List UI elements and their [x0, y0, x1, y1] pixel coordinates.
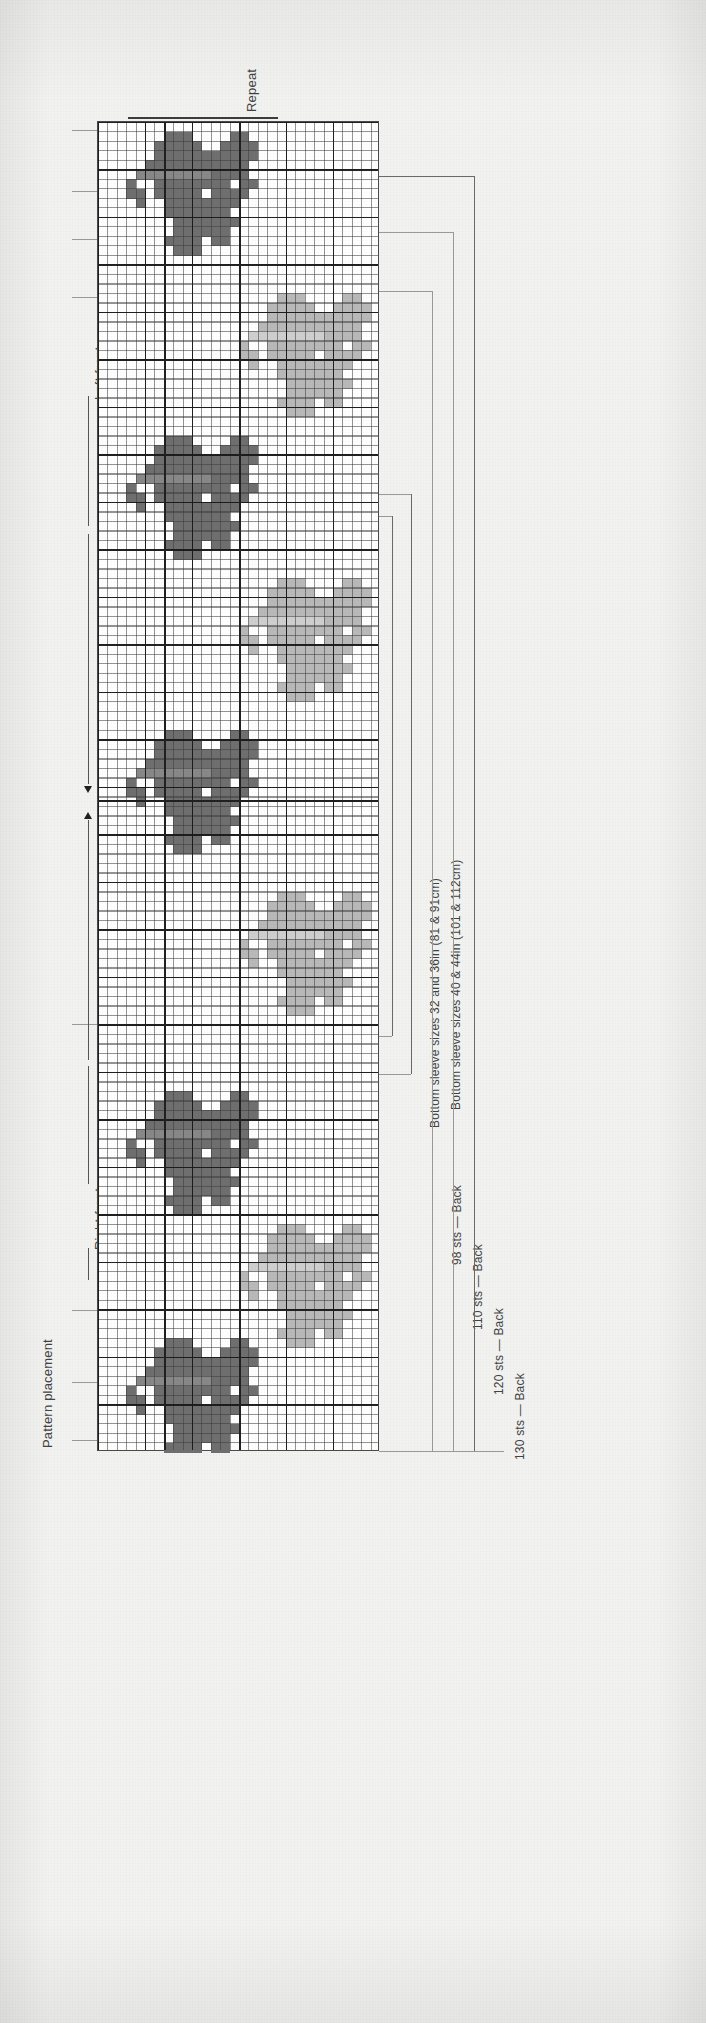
chart-cell — [333, 1329, 343, 1339]
chart-cell — [220, 1443, 230, 1453]
chart-cell — [136, 502, 146, 512]
chart-cell — [136, 1405, 146, 1415]
label-pattern-placement: Pattern placement — [40, 1339, 55, 1448]
chart-cell — [192, 1443, 202, 1453]
chart-cell — [248, 958, 258, 968]
stitch-count-120: 120 sts — Back — [492, 1308, 506, 1395]
chart-cell — [248, 483, 258, 493]
chart-cell — [248, 360, 258, 370]
chart-cell — [248, 1139, 258, 1149]
rule-left-front — [88, 396, 89, 526]
bracket-right-1 — [474, 176, 475, 1451]
chart-cell — [333, 996, 343, 1006]
chart-cell — [342, 977, 352, 987]
bracket-sleeve-small — [392, 516, 393, 1036]
chart-cell — [248, 1386, 258, 1396]
chart-cell — [192, 844, 202, 854]
chart-cell — [361, 1243, 371, 1253]
chart-cell — [248, 151, 258, 161]
chart-cell — [248, 645, 258, 655]
chart-cell — [248, 455, 258, 465]
chart-cell — [342, 379, 352, 389]
chart-cell — [305, 1006, 315, 1016]
chart-cell — [305, 692, 315, 702]
leader-sleeve-small-bottom — [379, 1036, 392, 1037]
rule-left-front-lower — [88, 534, 89, 784]
stitch-count-piece: Back — [492, 1308, 506, 1335]
chart-cell — [220, 540, 230, 550]
chart-cell — [192, 1205, 202, 1215]
stitch-count-dash: — — [513, 1404, 527, 1416]
chart-cell — [361, 1272, 371, 1282]
rule-right-front — [88, 820, 89, 1060]
leader-left-bot-2 — [72, 1382, 98, 1383]
leader-left-top-1 — [72, 130, 98, 131]
chart-cell — [136, 1158, 146, 1168]
leader-sleeve-large-top — [379, 494, 411, 495]
leader-bottom-edge — [379, 1451, 504, 1452]
chart-cell — [333, 398, 343, 408]
chart-centre-break-line — [98, 800, 378, 802]
chart-cell — [361, 939, 371, 949]
chart-cell — [248, 778, 258, 788]
chart-cell — [248, 1357, 258, 1367]
bracket-sleeve-large — [411, 494, 412, 1074]
chart-cell — [342, 360, 352, 370]
stitch-count-dash: — — [492, 1339, 506, 1351]
chart-cell — [342, 645, 352, 655]
chart-cell — [305, 1338, 315, 1348]
chart-cell — [352, 949, 362, 959]
rule-right-front-lower2 — [88, 1066, 89, 1184]
chart-cells — [98, 122, 378, 1450]
leader-right-3 — [379, 291, 432, 292]
chart-cell — [220, 835, 230, 845]
chart-cell — [220, 1196, 230, 1206]
leader-left-top-3 — [72, 239, 98, 240]
chart-cell — [352, 1281, 362, 1291]
chart-cell — [305, 407, 315, 417]
chart-cell — [342, 958, 352, 968]
chart-cell — [192, 246, 202, 256]
chart-cell — [361, 341, 371, 351]
label-repeat: Repeat — [244, 69, 259, 112]
chart-cell — [248, 1291, 258, 1301]
chart-cell — [220, 236, 230, 246]
pattern-chart-figure: Repeat Left front Right front Pattern pl… — [0, 0, 706, 2023]
label-bottom-sleeve-large: Bottom sleeve sizes 40 & 44in (101 & 112… — [449, 860, 463, 1111]
stitch-count-value: 120 sts — [492, 1355, 506, 1395]
leader-left-bot-3 — [72, 1440, 98, 1441]
leader-left-bot-1 — [72, 1310, 98, 1311]
leader-left-top-4 — [72, 297, 98, 298]
leader-right-1 — [379, 176, 474, 177]
chart-centre-line-left — [164, 122, 166, 1450]
chart-cell — [342, 1310, 352, 1320]
leader-sleeve-small-top — [379, 516, 392, 517]
leader-right-2 — [379, 232, 453, 233]
chart-cell — [352, 635, 362, 645]
chart-cell — [248, 1110, 258, 1120]
arrow-down-icon — [84, 786, 92, 793]
chart-cell — [361, 911, 371, 921]
chart-cell — [342, 664, 352, 674]
arrow-up-icon — [84, 812, 92, 819]
chart-cell — [192, 550, 202, 560]
chart-cell — [361, 626, 371, 636]
label-bottom-sleeve-small: Bottom sleeve sizes 32 and 36in (81 & 91… — [428, 878, 442, 1128]
chart-cell — [248, 179, 258, 189]
chart-cell — [352, 350, 362, 360]
leader-left-mid-1 — [72, 1024, 98, 1025]
stitch-count-130: 130 sts — Back — [513, 1373, 527, 1460]
bracket-right-2 — [453, 232, 454, 1451]
stitch-count-value: 130 sts — [513, 1420, 527, 1460]
chart-cell — [361, 312, 371, 322]
chart-cell — [342, 1291, 352, 1301]
colourwork-chart — [97, 121, 379, 1451]
chart-cell — [136, 198, 146, 208]
stitch-count-piece: Back — [513, 1373, 527, 1400]
chart-centre-line-right — [239, 122, 241, 1450]
leader-left-top-2 — [72, 191, 98, 192]
repeat-rule — [128, 117, 278, 119]
bracket-right-3 — [432, 291, 433, 1451]
chart-cell — [333, 683, 343, 693]
rule-right-front-lower — [88, 1248, 89, 1280]
